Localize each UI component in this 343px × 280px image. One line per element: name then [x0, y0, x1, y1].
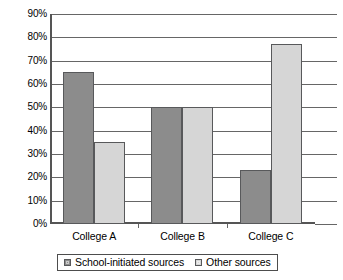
y-axis-tick-mark	[315, 224, 337, 225]
legend-item: School-initiated sources	[64, 257, 184, 268]
y-axis-tick-mark	[315, 61, 337, 62]
y-axis-tick-label: 90%	[3, 9, 47, 19]
y-axis-tick-label: 0%	[3, 219, 47, 229]
x-axis-tick-label: College A	[50, 230, 138, 242]
y-axis-tick-label: 20%	[3, 172, 47, 182]
x-axis-tick-mark	[227, 224, 228, 228]
dark-gray-swatch	[64, 259, 71, 266]
y-axis-tick-mark	[315, 131, 337, 132]
bar	[94, 142, 125, 224]
bar-group	[138, 14, 226, 224]
y-axis-tick-mark	[315, 201, 337, 202]
y-axis-tick-label: 10%	[3, 196, 47, 206]
bar	[63, 72, 94, 224]
y-axis-tick-label: 40%	[3, 126, 47, 136]
y-axis-tick-mark	[315, 107, 337, 108]
bar-group	[227, 14, 315, 224]
bar	[240, 170, 271, 224]
bar-chart: 0%10%20%30%40%50%60%70%80%90% College AC…	[0, 0, 343, 280]
y-axis: 0%10%20%30%40%50%60%70%80%90%	[0, 0, 47, 280]
y-axis-tick-label: 70%	[3, 56, 47, 66]
x-axis-tick-mark	[138, 224, 139, 228]
y-axis-tick-mark	[315, 154, 337, 155]
bar	[271, 44, 302, 224]
bars-layer	[50, 14, 315, 224]
y-axis-tick-mark	[315, 14, 337, 15]
y-axis-tick-mark	[315, 37, 337, 38]
y-axis-tick-label: 30%	[3, 149, 47, 159]
chart-legend: School-initiated sourcesOther sources	[57, 254, 278, 271]
bar	[182, 107, 213, 224]
y-axis-tick-label: 50%	[3, 102, 47, 112]
y-axis-tick-mark	[315, 177, 337, 178]
x-axis-tick-label: College B	[138, 230, 226, 242]
x-axis-tick-label: College C	[227, 230, 315, 242]
y-axis-tick-mark	[315, 84, 337, 85]
legend-item: Other sources	[195, 257, 271, 268]
x-axis: College ACollege BCollege C	[50, 224, 315, 246]
legend-label: Other sources	[206, 257, 271, 268]
y-axis-tick-label: 80%	[3, 32, 47, 42]
light-gray-swatch	[195, 259, 202, 266]
bar-group	[50, 14, 138, 224]
bar	[151, 107, 182, 224]
y-axis-tick-label: 60%	[3, 79, 47, 89]
legend-label: School-initiated sources	[75, 257, 184, 268]
